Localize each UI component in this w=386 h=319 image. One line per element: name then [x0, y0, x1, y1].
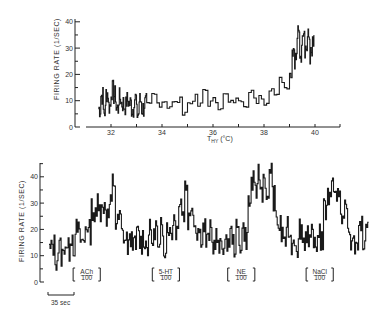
top-x-tick-label: 32	[107, 129, 115, 136]
x-label-unit: (°C)	[220, 135, 233, 143]
drug-application-markers: ACh1005-HT100NE100NaCl100	[73, 268, 333, 281]
drug-dose: 100	[314, 274, 325, 281]
top-y-tick-label: 30	[65, 45, 73, 52]
figure: 010203040 3234363840 FIRING RATE (1/SEC)…	[0, 0, 386, 319]
top-chart: 010203040 3234363840 FIRING RATE (1/SEC)…	[53, 18, 340, 144]
bottom-y-tick-label: 10	[30, 252, 38, 259]
x-label-sub: HY	[211, 138, 219, 144]
top-x-axis-label: THY(°C)	[207, 135, 233, 144]
drug-marker-ach: ACh100	[73, 268, 100, 281]
top-x-tick-label: 38	[260, 129, 268, 136]
drug-dose: 100	[160, 274, 171, 281]
top-y-tick-label: 10	[65, 97, 73, 104]
bottom-y-tick-label: 20	[30, 226, 38, 233]
top-firing-trace	[98, 26, 314, 118]
drug-dose: 100	[81, 274, 92, 281]
drug-marker-ne: NE100	[228, 268, 255, 281]
top-y-tick-label: 40	[65, 18, 73, 25]
bottom-y-ticks: 010203040	[30, 164, 44, 286]
bottom-y-axis-label: FIRING RATE (1/SEC)	[18, 180, 26, 262]
bottom-y-tick-label: 40	[30, 173, 38, 180]
scale-bar-label: 35 sec	[51, 299, 71, 306]
drug-marker-nacl: NaCl100	[306, 268, 333, 281]
drug-dose: 100	[236, 274, 247, 281]
bottom-chart: 010203040 FIRING RATE (1/SEC) ACh1005-HT…	[18, 163, 369, 306]
bottom-y-tick-label: 30	[30, 200, 38, 207]
bottom-firing-trace	[49, 163, 369, 270]
top-x-tick-label: 34	[158, 129, 166, 136]
drug-marker-5ht: 5-HT100	[152, 268, 179, 281]
bottom-y-tick-label: 0	[34, 279, 38, 286]
top-y-tick-label: 0	[69, 124, 73, 131]
top-y-axis-label: FIRING RATE (1/SEC)	[53, 18, 61, 100]
top-y-ticks: 010203040	[65, 18, 80, 130]
top-x-tick-label: 40	[311, 129, 319, 136]
time-scale-bar: 35 sec	[48, 292, 74, 306]
top-y-tick-label: 20	[65, 71, 73, 78]
